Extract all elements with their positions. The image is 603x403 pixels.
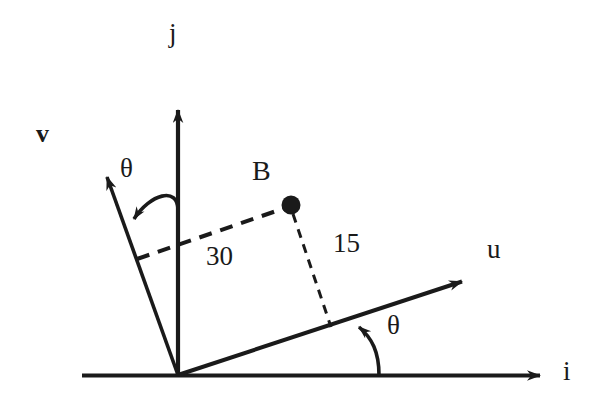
angle-label-theta-lower: θ [387, 312, 400, 339]
dimension-label-30: 30 [206, 243, 233, 270]
axis-label-j: j [169, 20, 177, 47]
vector-diagram-figure: i j u v B θ θ 30 15 [0, 0, 603, 403]
diagram-canvas [0, 0, 603, 403]
point-label-b: B [252, 157, 271, 185]
angle-arc-theta-upper [134, 196, 178, 219]
dimension-label-15: 15 [333, 230, 360, 257]
dimension-line-15 [293, 214, 331, 327]
axis-label-v: v [36, 121, 49, 147]
point-marker-b [282, 196, 301, 215]
axis-label-i: i [563, 358, 571, 385]
axis-label-u: u [487, 236, 501, 263]
angle-arc-theta-lower [359, 327, 379, 375]
angle-label-theta-upper: θ [120, 155, 133, 182]
